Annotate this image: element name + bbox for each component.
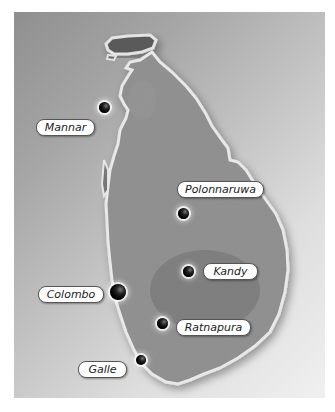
city-label-colombo[interactable]: Colombo (38, 286, 104, 303)
city-label-kandy[interactable]: Kandy (203, 263, 258, 280)
highlands (150, 250, 260, 330)
city-dot-polonnaruwa[interactable] (178, 208, 189, 219)
small-islet (107, 55, 116, 60)
city-dot-colombo[interactable] (110, 284, 126, 300)
mannar-island (102, 160, 108, 196)
city-dot-mannar[interactable] (99, 102, 110, 113)
jaffna-peninsula (106, 35, 156, 54)
island-map (14, 12, 325, 398)
city-label-galle[interactable]: Galle (78, 361, 127, 378)
city-label-polonnaruwa[interactable]: Polonnaruwa (177, 181, 264, 198)
city-label-mannar[interactable]: Mannar (36, 119, 95, 136)
city-label-ratnapura[interactable]: Ratnapura (176, 319, 251, 336)
city-dot-kandy[interactable] (183, 266, 194, 277)
map-frame: Mannar Polonnaruwa Kandy Colombo Ratnapu… (14, 12, 325, 398)
north-ridges (128, 80, 156, 120)
city-dot-galle[interactable] (136, 355, 146, 365)
city-dot-ratnapura[interactable] (157, 318, 168, 329)
